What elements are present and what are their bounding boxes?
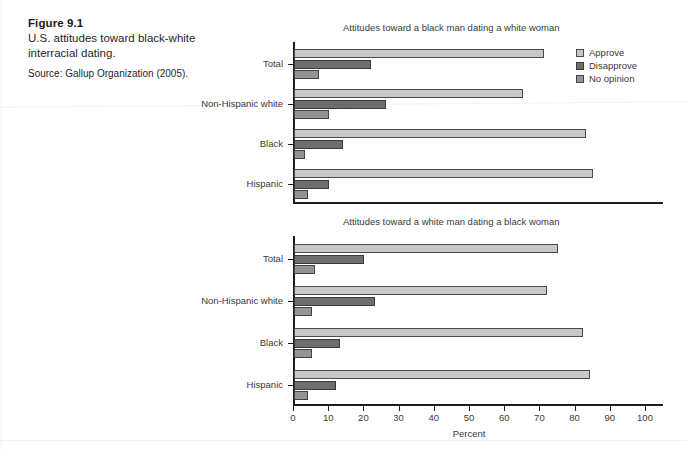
x-axis-label: Percent xyxy=(429,428,509,439)
x-axis-line xyxy=(293,202,663,204)
category-label-total: Total xyxy=(263,58,283,69)
bar-approve xyxy=(294,244,558,253)
category-tick xyxy=(288,64,293,65)
bar-no-opinion xyxy=(294,190,308,199)
x-tick-label: 0 xyxy=(278,412,308,423)
bar-approve xyxy=(294,169,593,178)
bar-approve xyxy=(294,129,586,138)
x-tick xyxy=(610,406,611,411)
bar-disapprove xyxy=(294,339,340,348)
legend-swatch-icon xyxy=(576,75,584,83)
x-tick-label: 20 xyxy=(348,412,378,423)
scan-artifact-line xyxy=(0,440,687,441)
x-axis-line xyxy=(293,404,663,406)
x-tick xyxy=(575,406,576,411)
bar-approve xyxy=(294,49,544,58)
bar-no-opinion xyxy=(294,391,308,400)
bar-no-opinion xyxy=(294,265,315,274)
bar-disapprove xyxy=(294,60,371,69)
legend-label: Approve xyxy=(589,46,624,59)
bar-approve xyxy=(294,89,523,98)
category-tick xyxy=(288,259,293,260)
bar-no-opinion xyxy=(294,110,329,119)
x-tick-label: 10 xyxy=(313,412,343,423)
chart-title: Attitudes toward a white man dating a bl… xyxy=(343,216,560,227)
x-tick-label: 30 xyxy=(384,412,414,423)
bar-disapprove xyxy=(294,255,364,264)
category-label-hispanic: Hispanic xyxy=(247,379,283,390)
figure-page: Figure 9.1 U.S. attitudes toward black-w… xyxy=(0,0,687,449)
x-tick-label: 80 xyxy=(560,412,590,423)
bar-no-opinion xyxy=(294,307,312,316)
x-tick xyxy=(504,406,505,411)
category-label-black: Black xyxy=(260,337,283,348)
bar-no-opinion xyxy=(294,349,312,358)
legend-label: Disapprove xyxy=(589,59,637,72)
bar-no-opinion xyxy=(294,150,305,159)
category-label-hispanic: Hispanic xyxy=(247,178,283,189)
chart-white-man-black-woman: Attitudes toward a white man dating a bl… xyxy=(0,205,687,449)
x-tick-label: 90 xyxy=(595,412,625,423)
x-tick xyxy=(434,406,435,411)
x-tick-label: 60 xyxy=(489,412,519,423)
x-tick-label: 40 xyxy=(419,412,449,423)
x-tick xyxy=(293,406,294,411)
bar-disapprove xyxy=(294,180,329,189)
x-tick-label: 50 xyxy=(454,412,484,423)
category-tick xyxy=(288,184,293,185)
category-label-non-hispanic-white: Non-Hispanic white xyxy=(201,295,283,306)
x-tick-label: 70 xyxy=(524,412,554,423)
bar-disapprove xyxy=(294,381,336,390)
x-tick xyxy=(469,406,470,411)
legend-label: No opinion xyxy=(589,72,634,85)
bar-approve xyxy=(294,370,590,379)
legend-swatch-icon xyxy=(576,62,584,70)
category-label-total: Total xyxy=(263,253,283,264)
x-tick xyxy=(645,406,646,411)
x-tick xyxy=(539,406,540,411)
x-tick-label: 100 xyxy=(630,412,660,423)
category-tick xyxy=(288,385,293,386)
plot-area: TotalNon-Hispanic whiteBlackHispanic0102… xyxy=(293,236,645,404)
bar-approve xyxy=(294,286,547,295)
chart-title: Attitudes toward a black man dating a wh… xyxy=(343,22,560,33)
category-label-black: Black xyxy=(260,138,283,149)
category-tick xyxy=(288,343,293,344)
category-label-non-hispanic-white: Non-Hispanic white xyxy=(201,98,283,109)
bar-disapprove xyxy=(294,297,375,306)
category-tick xyxy=(288,144,293,145)
x-tick xyxy=(399,406,400,411)
category-tick xyxy=(288,301,293,302)
x-tick xyxy=(328,406,329,411)
legend-swatch-icon xyxy=(576,49,584,57)
bar-no-opinion xyxy=(294,70,319,79)
bar-approve xyxy=(294,328,583,337)
x-tick xyxy=(363,406,364,411)
bar-disapprove xyxy=(294,140,343,149)
